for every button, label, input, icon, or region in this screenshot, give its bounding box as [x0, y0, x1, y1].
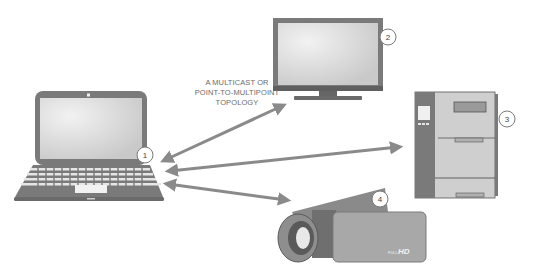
badge-2: 2 — [380, 29, 396, 45]
badge-4: 4 — [372, 191, 388, 207]
arrow-laptop-camcorder — [168, 184, 286, 200]
laptop-icon — [14, 91, 164, 201]
badge-3: 3 — [499, 111, 515, 127]
caption-line-1: A MULTICAST OR — [178, 78, 296, 88]
camcorder-brand-large: HD — [398, 247, 410, 256]
camcorder-icon: FULL HD — [278, 188, 426, 262]
connection-arrows — [165, 106, 398, 200]
camcorder-brand-small: FULL — [388, 250, 399, 255]
printer-icon — [415, 92, 498, 198]
topology-diagram: FULL HD 1 2 3 4 — [0, 0, 535, 278]
badge-1: 1 — [137, 147, 153, 163]
badge-2-label: 2 — [386, 33, 391, 42]
badge-3-label: 3 — [505, 115, 510, 124]
topology-caption: A MULTICAST OR POINT-TO-MULTIPOINT TOPOL… — [178, 78, 296, 108]
caption-line-2: POINT-TO-MULTIPOINT — [178, 88, 296, 98]
caption-line-3: TOPOLOGY — [178, 98, 296, 108]
badge-1-label: 1 — [143, 151, 148, 160]
badge-4-label: 4 — [378, 195, 383, 204]
arrow-laptop-monitor — [165, 106, 282, 160]
arrow-laptop-printer — [170, 147, 398, 171]
